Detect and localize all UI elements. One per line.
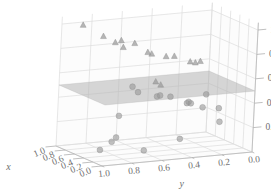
y-tick-label-2: 0.6 [158, 162, 171, 173]
x-tick-mark [46, 146, 57, 147]
x-axis-label: x [5, 161, 11, 172]
marker-circle [130, 84, 136, 90]
marker-circle [203, 91, 209, 97]
marker-circle [177, 136, 183, 142]
scatter3d-figure: 1.00.80.60.40.20.01.00.80.60.40.20.00.20… [0, 0, 271, 193]
marker-circle [116, 113, 122, 119]
marker-circle [168, 94, 174, 100]
z-tick-label-1: 0.4 [267, 98, 271, 108]
z-tick-mark [258, 29, 266, 30]
z-tick-mark [256, 78, 264, 79]
y-tick-label-4: 0.2 [218, 157, 231, 168]
z-tick-label-4: 1.0 [270, 25, 271, 35]
marker-circle [113, 135, 119, 141]
z-tick-mark [254, 102, 262, 103]
x-tick-mark [55, 150, 65, 151]
marker-circle [216, 105, 222, 111]
x-tick-mark [73, 158, 84, 159]
plot-canvas: 1.00.80.60.40.20.01.00.80.60.40.20.00.20… [0, 0, 271, 193]
y-axis-label: y [179, 178, 185, 189]
z-tick-label-3: 0.8 [269, 49, 271, 59]
marker-circle [200, 104, 206, 110]
y-tick-label-1: 0.8 [128, 165, 141, 176]
y-tick-label-3: 0.4 [188, 159, 201, 170]
marker-circle [135, 89, 141, 95]
marker-circle [109, 139, 115, 145]
z-tick-mark [257, 54, 265, 55]
marker-circle [141, 148, 147, 154]
marker-circle [188, 100, 194, 106]
y-tick-label-0: 1.0 [98, 168, 111, 179]
x-tick-mark [82, 162, 93, 163]
z-tick-label-0: 0.2 [265, 122, 271, 132]
z-tick-label-2: 0.6 [268, 73, 271, 83]
x-tick-mark [92, 166, 103, 167]
x-tick-mark [64, 154, 75, 155]
z-tick-mark [253, 127, 261, 128]
y-tick-mark [252, 152, 254, 153]
y-tick-label-5: 0.0 [248, 154, 261, 165]
marker-circle [217, 119, 223, 125]
marker-circle [97, 147, 103, 153]
marker-circle [157, 93, 163, 99]
